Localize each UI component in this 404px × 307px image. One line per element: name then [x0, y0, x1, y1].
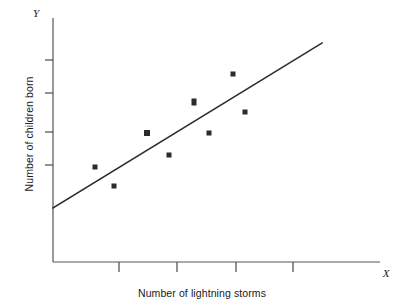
data-points-group [93, 72, 248, 189]
data-point [243, 110, 248, 115]
data-point [231, 72, 236, 77]
y-axis-title: Number of children born [23, 14, 35, 254]
trend-line [53, 43, 322, 208]
axes-group [53, 18, 380, 262]
data-point [112, 184, 117, 189]
y-axis-ticks [45, 60, 53, 165]
data-point [167, 153, 172, 158]
data-point [144, 130, 150, 136]
scatter-plot-figure: Y X Number of children born Number of li… [0, 0, 404, 307]
data-point [93, 165, 98, 170]
x-axis-title: Number of lightning storms [0, 287, 404, 299]
plot-canvas: Y X [0, 0, 404, 307]
data-point [207, 131, 212, 136]
x-axis-ticks [119, 262, 293, 272]
data-point [192, 99, 197, 106]
x-axis-symbol: X [382, 267, 391, 279]
